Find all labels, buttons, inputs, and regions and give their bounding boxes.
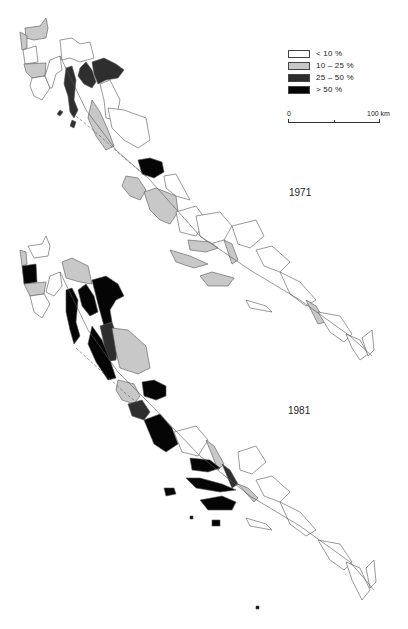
region-gorski-north xyxy=(60,38,94,62)
region-zadar-gray xyxy=(122,176,146,200)
region-imotski xyxy=(232,220,264,248)
scale-end-label: 100 km xyxy=(367,110,390,117)
island-vis-81 xyxy=(164,488,176,496)
region-metkovic xyxy=(256,246,290,272)
region-dubrovnik xyxy=(280,272,316,306)
island-small-2 xyxy=(70,120,76,128)
region-zadar-gray-81 xyxy=(116,380,140,404)
legend-label: 25 – 50 % xyxy=(316,74,354,82)
year-label-1981: 1981 xyxy=(288,405,310,416)
legend-item-gt50: > 50 % xyxy=(288,84,354,95)
region-benkovac-dark-81 xyxy=(128,400,150,420)
legend-label: > 50 % xyxy=(316,86,342,94)
region-istria-mid-81 xyxy=(22,264,37,284)
region-istria-west-81 xyxy=(20,250,27,266)
legend-swatch-white xyxy=(288,50,310,58)
region-istria-north xyxy=(25,18,48,40)
map-1981 xyxy=(20,236,376,609)
island-small-1 xyxy=(57,110,63,116)
legend-item-10-25: 10 – 25 % xyxy=(288,60,354,71)
island-tiny-bottom xyxy=(256,606,259,609)
scale-start-label: 0 xyxy=(287,110,291,117)
region-istria-north-81 xyxy=(28,236,50,258)
island-cres-81 xyxy=(66,288,80,344)
island-korcula-81 xyxy=(200,496,236,510)
region-imotski-81 xyxy=(238,446,266,474)
year-label-1971: 1971 xyxy=(289,187,311,198)
legend-label: 10 – 25 % xyxy=(316,62,354,70)
region-lika-gray-81 xyxy=(112,328,150,374)
region-neretva-81 xyxy=(256,476,290,502)
scale-line xyxy=(288,122,380,123)
island-korcula-gray xyxy=(200,272,234,286)
region-gospic-dark-81 xyxy=(142,380,166,400)
island-small-81 xyxy=(190,516,193,519)
scale-tick xyxy=(334,120,335,122)
island-hvar-gray xyxy=(170,250,208,268)
island-mljet-81 xyxy=(246,518,272,530)
scale-tick xyxy=(288,119,289,122)
region-istria-south-gray xyxy=(24,63,46,78)
region-lika xyxy=(108,108,150,148)
region-gospic-dark xyxy=(138,158,164,178)
scale-tick xyxy=(379,119,380,122)
legend-item-25-50: 25 – 50 % xyxy=(288,72,354,83)
island-cres xyxy=(64,66,78,118)
region-senj xyxy=(92,58,124,84)
region-sibenik-dark-81 xyxy=(144,414,178,452)
legend-swatch-black xyxy=(288,86,310,94)
legend: < 10 % 10 – 25 % 25 – 50 % > 50 % xyxy=(288,48,354,96)
legend-label: < 10 % xyxy=(316,50,342,58)
region-rijeka-81 xyxy=(46,272,62,296)
legend-item-lt10: < 10 % xyxy=(288,48,354,59)
region-gorski-81 xyxy=(62,258,92,284)
island-lastovo-81 xyxy=(212,520,220,526)
region-dubrovnik-81 xyxy=(280,502,316,536)
region-senj-81 xyxy=(92,276,124,326)
region-split xyxy=(196,212,232,244)
region-istria-south-81 xyxy=(30,294,50,318)
legend-swatch-dark xyxy=(288,74,310,82)
island-mljet xyxy=(246,300,272,312)
region-split-81 xyxy=(174,426,208,456)
legend-swatch-gray xyxy=(288,62,310,70)
